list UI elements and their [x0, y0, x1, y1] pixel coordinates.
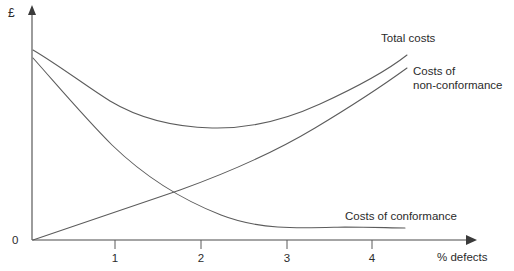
series-label-conformance: Costs of conformance — [345, 209, 457, 223]
series-label-non-conformance-line2: non-conformance — [413, 79, 503, 91]
x-tick-label-2: 2 — [191, 252, 211, 264]
series-label-non-conformance: Costs of non-conformance — [413, 64, 503, 92]
x-axis-title: % defects — [437, 250, 488, 264]
x-axis — [32, 235, 477, 245]
x-axis-arrow-icon — [466, 235, 477, 245]
x-axis-ticks — [115, 240, 372, 249]
x-tick-label-1: 1 — [105, 252, 125, 264]
y-axis-label: £ — [8, 6, 15, 20]
y-axis-arrow-icon — [28, 5, 36, 15]
x-tick-label-4: 4 — [362, 252, 382, 264]
chart-canvas — [0, 0, 514, 271]
series-label-total-costs: Total costs — [381, 31, 435, 45]
cost-of-quality-chart: £ 0 1 2 3 4 % defects Total costs Costs … — [0, 0, 514, 271]
y-axis — [28, 5, 36, 240]
x-tick-label-3: 3 — [277, 252, 297, 264]
curve-costs-of-conformance — [33, 58, 405, 228]
curve-total-costs — [33, 50, 407, 128]
series-label-non-conformance-line1: Costs of — [413, 65, 455, 77]
origin-label: 0 — [12, 233, 18, 247]
